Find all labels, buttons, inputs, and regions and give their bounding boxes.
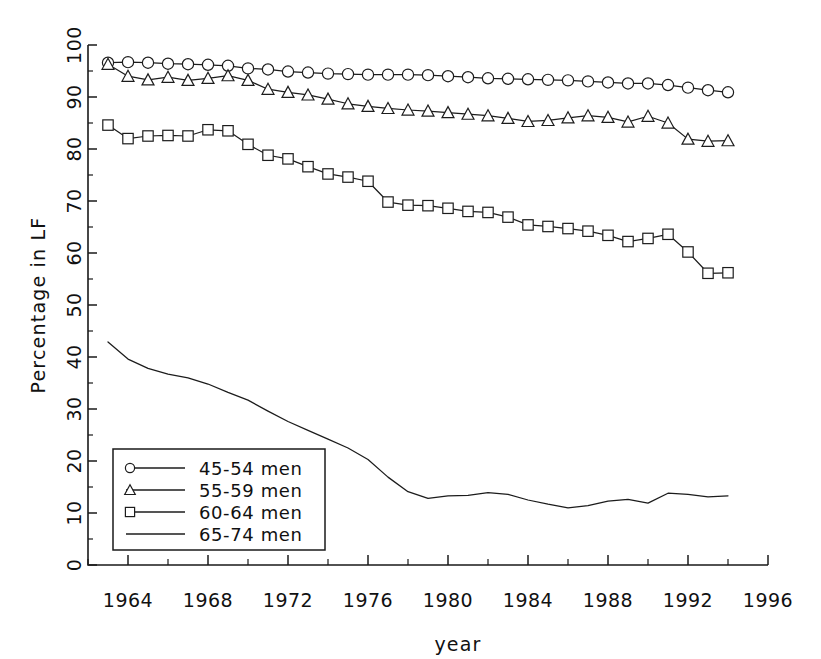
y-tick-label: 90 (63, 84, 85, 109)
series-point (243, 139, 253, 149)
series-point (302, 67, 313, 78)
series-point (262, 83, 274, 94)
series-point (682, 82, 693, 93)
series-point (703, 268, 713, 278)
series-point (663, 229, 673, 239)
series-point (122, 57, 133, 68)
x-tick-label: 1984 (503, 589, 553, 611)
x-tick-label: 1976 (343, 589, 393, 611)
series-point (622, 78, 633, 89)
y-tick-label: 80 (63, 136, 85, 161)
series-point (263, 150, 273, 160)
series-point (563, 223, 573, 233)
series-point (222, 70, 234, 81)
series-point (422, 70, 433, 81)
chart-legend: 45-54 men55-59 men60-64 men65-74 men (113, 449, 325, 550)
x-tick-label: 1968 (183, 589, 233, 611)
y-tick-label: 10 (63, 500, 85, 525)
series-point (482, 73, 493, 84)
series-point (462, 72, 473, 83)
x-axis-title: year (434, 633, 481, 655)
y-tick-label: 20 (63, 448, 85, 473)
y-tick-label: 30 (63, 396, 85, 421)
series-point (402, 69, 413, 80)
series-point (282, 66, 293, 77)
series-point (343, 172, 353, 182)
series-point (303, 161, 313, 171)
y-tick-label: 0 (63, 559, 85, 572)
series-point (162, 58, 173, 69)
series-point (183, 131, 193, 141)
series-path (108, 62, 728, 92)
chart-figure: 0102030405060708090100196419681972197619… (0, 0, 821, 659)
chart-plot-area: 0102030405060708090100196419681972197619… (0, 0, 821, 659)
series-point (122, 70, 134, 81)
series-point (103, 120, 113, 130)
series-point (582, 76, 593, 87)
series-point (423, 200, 433, 210)
series-point (143, 131, 153, 141)
series-point (642, 110, 654, 121)
series-point (483, 207, 493, 217)
series-point (583, 226, 593, 236)
legend-marker-circle-icon (125, 463, 134, 472)
series-point (443, 203, 453, 213)
series-point (322, 68, 333, 79)
y-tick-label: 60 (63, 240, 85, 265)
series-point (342, 69, 353, 80)
legend-label: 45-54 men (199, 458, 302, 479)
series-point (162, 71, 174, 82)
series-point (522, 74, 533, 85)
y-tick-label: 50 (63, 292, 85, 317)
x-tick-label: 1996 (743, 589, 793, 611)
series-point (503, 212, 513, 222)
series-point (502, 73, 513, 84)
series-point (382, 69, 393, 80)
series-point (242, 63, 253, 74)
series-point (682, 133, 694, 144)
series-point (602, 77, 613, 88)
y-axis-title: Percentage in LF (27, 217, 49, 394)
series-point (702, 85, 713, 96)
axis-labels-group: 0102030405060708090100196419681972197619… (27, 26, 793, 655)
series-point (643, 233, 653, 243)
series-path (108, 125, 728, 273)
series-point (623, 236, 633, 246)
series-point (363, 176, 373, 186)
series-point (543, 221, 553, 231)
series-point (262, 64, 273, 75)
x-tick-label: 1972 (263, 589, 313, 611)
series-point (683, 247, 693, 257)
series-point (442, 71, 453, 82)
series-point (662, 117, 674, 128)
series-point (142, 57, 153, 68)
series-point (202, 59, 213, 70)
series-point (523, 220, 533, 230)
series-point (542, 74, 553, 85)
series-point (362, 69, 373, 80)
series-path (108, 64, 728, 141)
series-45-54-men (102, 57, 733, 98)
series-point (182, 59, 193, 70)
y-tick-label: 100 (63, 26, 85, 64)
series-60-64-men (103, 120, 733, 279)
x-tick-label: 1988 (583, 589, 633, 611)
y-tick-label: 40 (63, 344, 85, 369)
series-point (283, 154, 293, 164)
legend-label: 55-59 men (199, 480, 302, 501)
series-point (403, 200, 413, 210)
x-tick-label: 1992 (663, 589, 713, 611)
series-point (203, 125, 213, 135)
legend-label: 65-74 men (199, 524, 302, 545)
series-point (562, 75, 573, 86)
series-point (463, 206, 473, 216)
series-point (662, 79, 673, 90)
series-point (323, 169, 333, 179)
series-point (723, 268, 733, 278)
x-tick-label: 1980 (423, 589, 473, 611)
series-point (123, 133, 133, 143)
y-tick-label: 70 (63, 188, 85, 213)
series-point (383, 197, 393, 207)
series-point (582, 110, 594, 121)
series-point (163, 130, 173, 140)
